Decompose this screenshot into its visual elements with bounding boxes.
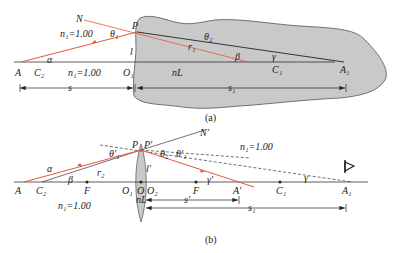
label-C1-b: C₁ (276, 185, 286, 196)
label-r2: r₂ (97, 167, 105, 178)
label-C1: C₁ (272, 64, 282, 75)
label-P: P (131, 20, 138, 31)
label-N: N (75, 13, 84, 24)
label-beta-b: β (67, 174, 73, 185)
label-gamma-prime: γ′ (207, 174, 214, 185)
label-nL: nL (172, 67, 183, 78)
label-F-right: F (192, 185, 200, 196)
label-n1-upper-b: n₁=1.00 (240, 141, 273, 152)
label-C2-b: C₂ (36, 185, 47, 196)
label-F-left: F (83, 185, 91, 196)
label-theta1: θ₁ (110, 28, 118, 39)
label-A-b: A (14, 185, 22, 196)
label-theta1-prime: θ′₁ (109, 148, 120, 159)
label-theta1-prime-right: θ′₁ (176, 148, 187, 159)
label-A-prime: A′ (232, 185, 242, 196)
label-alpha-b: α (47, 163, 53, 174)
label-n1-lower-b: n₁=1.00 (58, 200, 91, 211)
caption-b: (b) (205, 234, 217, 246)
figure-a: N P θ₁ θ₂ r₁ n₁=1.00 α l A C₂ n₁=1.00 O₁… (14, 13, 386, 124)
label-n1-lower: n₁=1.00 (68, 67, 101, 78)
label-P-b: P (131, 139, 138, 150)
label-s1-b: s₁ (248, 202, 255, 213)
label-s-prime: s′ (184, 194, 191, 205)
label-gamma-b: γ (304, 172, 309, 183)
eye-icon (345, 160, 354, 173)
label-alpha: α (47, 54, 53, 65)
label-A: A (14, 67, 22, 78)
label-nL-b: nL (136, 194, 147, 205)
caption-a: (a) (205, 112, 216, 124)
label-r1: r₁ (188, 41, 195, 52)
label-theta2-b: θ₂ (160, 148, 169, 159)
label-N-prime: N′ (199, 127, 210, 138)
label-s1: s₁ (228, 82, 235, 93)
label-n1-upper: n₁=1.00 (60, 28, 93, 39)
refracted-ray-b (141, 150, 254, 187)
label-A1-b: A₁ (341, 185, 352, 196)
label-beta: β (234, 51, 240, 62)
label-O2: O₂ (147, 185, 158, 196)
label-P-prime: P′ (143, 139, 153, 150)
label-theta2: θ₂ (204, 31, 213, 42)
label-O1-b: O₁ (122, 185, 133, 196)
label-A1: A₁ (339, 64, 350, 75)
incident-ray-b (24, 150, 141, 182)
optics-diagram: N P θ₁ θ₂ r₁ n₁=1.00 α l A C₂ n₁=1.00 O₁… (0, 0, 393, 253)
figure-b: P P′ N′ θ′₁ θ₂ θ′₁ n₁=1.00 α β r₂ l′ A C… (14, 127, 368, 246)
label-l: l (130, 46, 133, 57)
label-s: s (68, 82, 72, 93)
label-l-prime: l′ (146, 163, 152, 174)
label-C2: C₂ (34, 67, 45, 78)
label-O1: O₁ (123, 67, 134, 78)
